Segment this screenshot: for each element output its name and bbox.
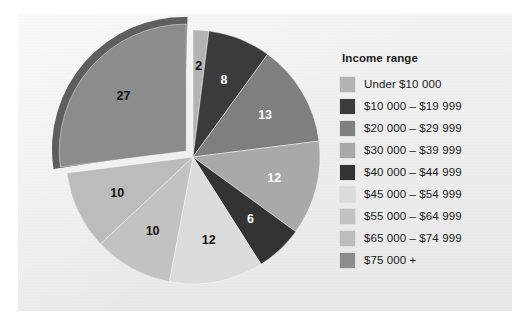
pie-slice-value-label: 10 bbox=[146, 224, 160, 238]
legend-item[interactable]: $30 000 – $39 999 bbox=[340, 139, 510, 161]
legend-swatch-icon bbox=[340, 99, 355, 114]
legend-item[interactable]: $45 000 – $54 999 bbox=[340, 183, 510, 205]
legend-item[interactable]: $40 000 – $44 999 bbox=[340, 161, 510, 183]
pie-chart: 281312612101027 bbox=[50, 16, 336, 296]
pie-chart-svg: 281312612101027 bbox=[50, 16, 336, 296]
pie-slice-value-label: 2 bbox=[195, 59, 202, 73]
legend-item-label: $65 000 – $74 999 bbox=[364, 232, 462, 244]
legend-item-label: $30 000 – $39 999 bbox=[364, 144, 462, 156]
legend-swatch-icon bbox=[340, 143, 355, 158]
legend-item-label: $45 000 – $54 999 bbox=[364, 188, 462, 200]
legend-swatch-icon bbox=[340, 187, 355, 202]
legend-item-label: $75 000 + bbox=[364, 254, 416, 266]
legend-item[interactable]: $10 000 – $19 999 bbox=[340, 95, 510, 117]
legend-item[interactable]: $55 000 – $64 999 bbox=[340, 205, 510, 227]
pie-slice-value-label: 12 bbox=[267, 171, 281, 185]
pie-slice-value-label: 10 bbox=[110, 186, 124, 200]
legend-item[interactable]: $65 000 – $74 999 bbox=[340, 227, 510, 249]
legend-item-label: Under $10 000 bbox=[364, 78, 441, 90]
pie-slice-value-label: 6 bbox=[247, 212, 254, 226]
legend-swatch-icon bbox=[340, 77, 355, 92]
legend-item-label: $20 000 – $29 999 bbox=[364, 122, 462, 134]
legend-item[interactable]: $75 000 + bbox=[340, 249, 510, 271]
pie-slice-value-label: 8 bbox=[220, 73, 227, 87]
legend-title: Income range bbox=[342, 52, 510, 64]
pie-slice-value-label: 12 bbox=[202, 233, 216, 247]
legend-swatch-icon bbox=[340, 121, 355, 136]
pie-slices bbox=[59, 24, 320, 284]
legend-item-label: $40 000 – $44 999 bbox=[364, 166, 462, 178]
legend-item-label: $10 000 – $19 999 bbox=[364, 100, 462, 112]
legend-item-label: $55 000 – $64 999 bbox=[364, 210, 462, 222]
pie-slice-value-label: 13 bbox=[258, 108, 272, 122]
pie-slice-value-label: 27 bbox=[116, 89, 130, 103]
legend: Income range Under $10 000$10 000 – $19 … bbox=[340, 52, 510, 271]
legend-swatch-icon bbox=[340, 209, 355, 224]
legend-swatch-icon bbox=[340, 165, 355, 180]
legend-items: Under $10 000$10 000 – $19 999$20 000 – … bbox=[340, 73, 510, 271]
legend-item[interactable]: $20 000 – $29 999 bbox=[340, 117, 510, 139]
figure-root: 281312612101027 Income range Under $10 0… bbox=[0, 0, 520, 333]
legend-item[interactable]: Under $10 000 bbox=[340, 73, 510, 95]
legend-swatch-icon bbox=[340, 253, 355, 268]
legend-swatch-icon bbox=[340, 231, 355, 246]
